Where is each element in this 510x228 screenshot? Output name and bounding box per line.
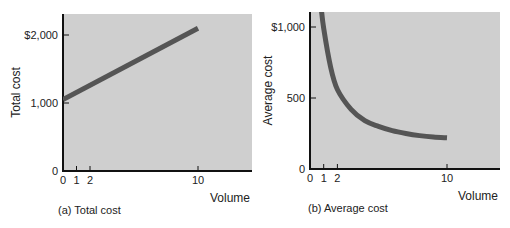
x-tick-label: 10 <box>192 174 204 186</box>
x-tick-label: 1 <box>321 172 327 184</box>
x-tick-label: 2 <box>334 172 340 184</box>
y-tick-label: 1,000 <box>30 97 58 109</box>
y-tick-label: $2,000 <box>24 29 58 41</box>
plot-area <box>63 14 252 171</box>
average-cost-chart: 012100500$1,000VolumeAverage cost (b) Av… <box>255 0 510 228</box>
y-tick-label: 0 <box>299 163 305 175</box>
average-cost-plot: 012100500$1,000VolumeAverage cost <box>255 0 510 228</box>
x-tick-label: 0 <box>307 172 313 184</box>
chart-caption: (a) Total cost <box>58 204 121 216</box>
x-tick-label: 10 <box>441 172 453 184</box>
x-axis-title: Volume <box>458 189 498 203</box>
total-cost-plot: 0121001,000$2,000VolumeTotal cost <box>0 0 255 228</box>
x-tick-label: 2 <box>87 174 93 186</box>
chart-caption: (b) Average cost <box>308 202 388 214</box>
x-axis-title: Volume <box>210 191 250 205</box>
y-tick-label: $1,000 <box>271 21 305 33</box>
total-cost-chart: 0121001,000$2,000VolumeTotal cost (a) To… <box>0 0 255 228</box>
y-axis-title: Total cost <box>9 66 23 117</box>
x-tick-label: 1 <box>73 174 79 186</box>
y-tick-label: 500 <box>287 92 305 104</box>
y-axis-title: Average cost <box>261 55 275 125</box>
y-tick-label: 0 <box>52 165 58 177</box>
x-tick-label: 0 <box>60 174 66 186</box>
